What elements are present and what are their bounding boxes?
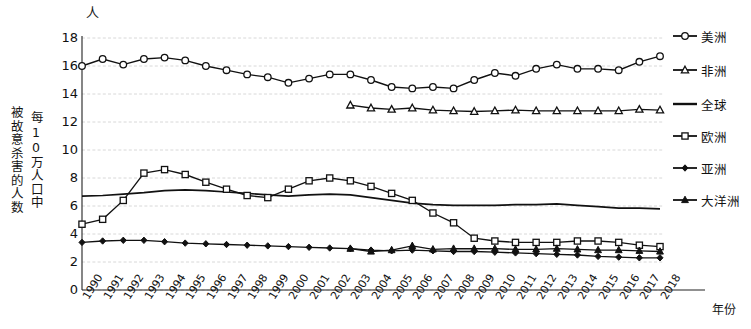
data-point-marker [327,175,333,181]
data-point-marker [471,77,478,84]
data-point-marker [533,107,540,114]
legend-item-非洲[interactable]: 非洲 [672,62,727,78]
data-point-marker [636,106,643,113]
data-point-marker [492,70,499,77]
data-point-marker [120,197,126,203]
data-point-marker [162,239,168,245]
data-point-marker [681,66,688,73]
data-point-marker [409,104,416,111]
data-point-marker [161,167,167,173]
data-point-marker [285,243,291,249]
data-point-marker [99,56,106,63]
data-point-marker [657,53,664,60]
data-point-marker [347,178,353,184]
data-point-marker [182,240,188,246]
data-point-marker [595,66,602,73]
data-point-marker [306,178,312,184]
data-point-marker [682,133,688,139]
data-point-marker [347,71,354,78]
series-1 [347,101,664,114]
data-point-marker [120,61,127,68]
data-point-marker [388,84,395,91]
data-point-marker [450,85,457,92]
data-point-marker [595,253,601,259]
series-line [82,170,660,247]
data-point-marker [553,61,560,68]
data-point-marker [306,75,313,82]
data-point-marker [223,186,229,192]
data-point-marker [223,67,230,74]
data-point-marker [409,197,415,203]
data-point-marker [285,80,292,87]
data-point-marker [615,67,622,74]
data-point-marker [450,107,457,114]
data-point-marker [327,245,333,251]
data-point-marker [244,71,251,78]
series-0 [79,53,664,92]
data-point-marker [203,63,210,70]
data-point-marker [492,238,498,244]
legend-marker-icon [672,129,698,143]
data-point-marker [574,238,580,244]
data-point-marker [491,107,498,114]
data-point-marker [203,241,209,247]
data-point-marker [430,84,437,91]
legend-item-大洋洲[interactable]: 大洋洲 [672,192,740,208]
data-point-marker [450,220,456,226]
data-point-marker [182,171,188,177]
data-point-marker [265,195,271,201]
legend-marker-icon [672,193,698,207]
data-point-marker [682,165,688,171]
data-point-marker [141,170,147,176]
data-point-marker [244,192,250,198]
legend-label: 亚洲 [701,159,727,178]
data-point-marker [682,33,689,40]
data-point-marker [388,106,395,113]
data-point-marker [657,255,663,261]
legend-label: 欧洲 [701,127,727,146]
data-point-marker [141,237,147,243]
data-point-marker [574,107,581,114]
legend-item-美洲[interactable]: 美洲 [672,28,727,44]
data-point-marker [594,107,601,114]
data-point-marker [409,85,416,92]
legend-marker-icon [672,97,698,111]
legend-item-全球[interactable]: 全球 [672,96,727,112]
data-point-marker [554,251,560,257]
data-point-marker [616,254,622,260]
homicide-rate-line-chart: 人 被故意杀害的人数 每10万人口中 024681012141618 19901… [0,0,751,329]
data-point-marker [100,238,106,244]
data-point-marker [636,59,643,66]
data-point-marker [244,242,250,248]
data-point-marker [161,54,168,61]
data-point-marker [224,241,230,247]
legend-marker-icon [672,29,698,43]
data-point-marker [616,239,622,245]
data-point-marker [347,101,354,108]
data-point-marker [265,243,271,249]
data-point-marker [512,73,519,80]
data-point-marker [100,216,106,222]
legend-item-欧洲[interactable]: 欧洲 [672,128,727,144]
chart-legend: 美洲非洲全球欧洲亚洲大洋洲 [672,22,751,212]
legend-label: 大洋洲 [701,191,740,210]
data-point-marker [471,108,478,115]
legend-label: 美洲 [701,27,727,46]
data-point-marker [182,57,189,64]
data-point-marker [79,221,85,227]
data-point-marker [656,106,663,113]
data-point-marker [368,183,374,189]
data-point-marker [203,179,209,185]
data-point-marker [141,56,148,63]
data-point-marker [512,106,519,113]
data-point-marker [553,107,560,114]
data-point-marker [595,238,601,244]
x-axis-title: 年份 [712,300,736,317]
legend-item-亚洲[interactable]: 亚洲 [672,160,727,176]
data-point-marker [409,242,416,248]
data-point-marker [306,244,312,250]
legend-marker-icon [672,161,698,175]
legend-marker-icon [672,63,698,77]
series-line [350,105,660,111]
data-point-marker [574,66,581,73]
